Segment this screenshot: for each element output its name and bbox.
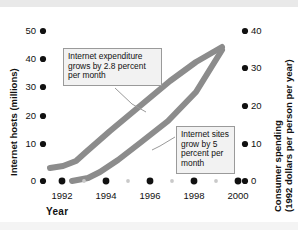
right-tick-label-10: 10 — [251, 139, 262, 149]
annotation-sites: Internet sites grow by 5 percent per mon… — [176, 126, 235, 174]
right-tick-label-20: 20 — [251, 101, 262, 111]
left-axis-tick-dots — [40, 28, 46, 184]
right-tick-label-0: 0 — [251, 176, 256, 186]
x-tick-label-1998: 1998 — [172, 191, 216, 201]
y2-axis-title-line2: (1992 dollars per person per year) — [283, 59, 294, 212]
annotation-expenditure: Internet expenditure grows by 2.8 percen… — [63, 48, 162, 86]
y2-axis-title: Consumer spending (1992 dollars per pers… — [272, 59, 294, 212]
y2-axis-title-line1: Consumer spending — [272, 120, 283, 212]
right-tick-label-30: 30 — [251, 63, 262, 73]
left-tick-label-40: 40 — [6, 54, 36, 64]
left-tick-label-0: 0 — [6, 176, 36, 186]
x-axis-title: Year — [46, 206, 68, 217]
annotation-sites-line4: month — [181, 159, 230, 169]
x-tick-label-1994: 1994 — [84, 191, 128, 201]
leader-line-sites — [152, 137, 175, 150]
x-tick-label-1992: 1992 — [40, 191, 84, 201]
y-axis-title: Internet hosts (millions) — [8, 68, 19, 176]
x-tick-label-1996: 1996 — [128, 191, 172, 201]
left-tick-label-50: 50 — [6, 26, 36, 36]
right-tick-label-40: 40 — [251, 26, 262, 36]
right-axis-tick-dots — [242, 28, 248, 184]
annotation-expenditure-line3: per month — [68, 71, 157, 81]
chart-figure: 50 40 30 20 10 0 40 30 20 10 0 1992 1994… — [0, 0, 298, 230]
x-tick-label-2000: 2000 — [216, 191, 260, 201]
